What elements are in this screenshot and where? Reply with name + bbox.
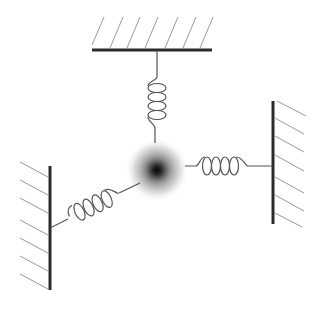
left-wall-hatching [20,162,48,289]
top-spring [148,50,166,143]
left-spring [50,183,140,228]
right-wall-hatching [275,101,306,227]
top-wall-hatching [92,17,213,48]
mass-ball [125,138,189,202]
top-wall [92,17,213,50]
spring-mass-diagram [0,0,323,309]
left-wall [20,162,50,290]
right-wall [273,101,306,227]
right-spring [185,157,273,175]
